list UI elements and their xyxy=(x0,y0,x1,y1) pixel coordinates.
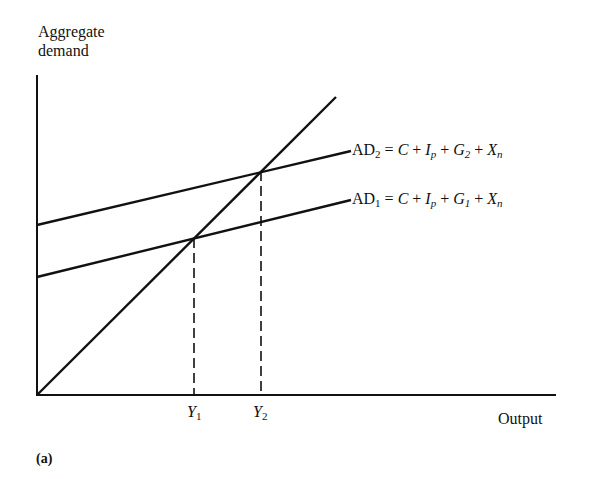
ad2-equation-label: AD2 = C + Ip + G2 + Xn xyxy=(352,140,503,159)
forty-five-degree-line xyxy=(37,97,336,395)
x-axis-label: Output xyxy=(498,409,542,428)
ad2-line xyxy=(37,151,351,225)
y1-tick-label: Y1 xyxy=(187,402,201,421)
y2-tick-label: Y2 xyxy=(253,402,267,421)
panel-label: (a) xyxy=(36,449,52,468)
ad1-equation-label: AD1 = C + Ip + G1 + Xn xyxy=(352,189,503,208)
chart-canvas xyxy=(0,0,592,479)
y-axis-label: Aggregate demand xyxy=(38,22,105,60)
